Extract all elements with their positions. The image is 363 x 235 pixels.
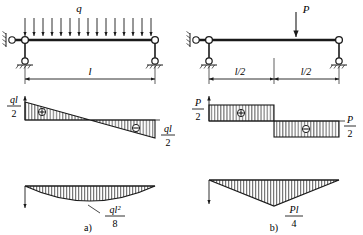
svg-text:2: 2: [348, 128, 353, 139]
node-b-left: [206, 37, 213, 44]
shear-b-right-value: P 2: [344, 114, 356, 139]
dimension-b-span: [209, 58, 339, 84]
shear-a-right-value: ql 2: [161, 123, 175, 148]
svg-text:Pl: Pl: [289, 204, 299, 215]
panel-a-caption: a): [84, 222, 92, 234]
support-b-left-lower: [200, 58, 217, 69]
support-a-left-upper: [3, 32, 16, 48]
moment-a-leader: [88, 205, 100, 213]
svg-text:ql: ql: [10, 94, 18, 105]
svg-text:2: 2: [166, 137, 171, 148]
node-b-right: [336, 37, 343, 44]
span-label-l-a: l: [88, 65, 91, 77]
panel-b-beam: [187, 12, 348, 84]
load-label-q: q: [76, 2, 82, 14]
svg-text:P: P: [194, 97, 201, 108]
node-a-right: [152, 37, 159, 44]
svg-text:8: 8: [113, 218, 118, 229]
sign-badge-a-plus: [38, 108, 45, 115]
moment-b-triangle: [209, 180, 339, 206]
svg-text:2: 2: [12, 108, 17, 119]
support-b-right-lower: [330, 58, 347, 69]
svg-text:2: 2: [196, 111, 201, 122]
panel-b-caption: b): [270, 222, 278, 234]
sign-badge-b-minus: [302, 125, 309, 132]
panel-a-shear: ql 2 ql 2: [7, 94, 175, 148]
svg-text:ql²: ql²: [110, 204, 122, 215]
sign-badge-b-plus: [237, 109, 244, 116]
beam-diagram-svg: q l ql 2: [0, 0, 363, 235]
support-a-left-lower: [16, 58, 33, 69]
moment-a-parabola: [25, 186, 155, 201]
svg-text:P: P: [346, 114, 353, 125]
svg-text:4: 4: [292, 218, 297, 229]
moment-a-max-value: ql² 8: [105, 204, 125, 229]
support-a-right-lower: [146, 58, 163, 69]
span-label-left-b: l/2: [235, 66, 246, 77]
moment-b-max-value: Pl 4: [285, 204, 303, 229]
span-label-right-b: l/2: [301, 66, 312, 77]
shear-a-positive-region: [25, 102, 90, 120]
load-label-P: P: [302, 3, 310, 15]
sign-badge-a-minus: [132, 124, 139, 131]
figure-root: q l ql 2: [0, 0, 363, 235]
panel-b-shear: P 2 P 2: [192, 96, 356, 139]
svg-text:ql: ql: [164, 123, 172, 134]
panel-a-beam: [3, 18, 164, 84]
node-a-left: [22, 37, 29, 44]
shear-a-left-value: ql 2: [7, 94, 21, 119]
shear-b-left-value: P 2: [192, 97, 204, 122]
shear-a-negative-region: [90, 120, 155, 138]
distributed-load-arrows-a: [25, 18, 151, 36]
support-b-left-upper: [187, 32, 200, 48]
